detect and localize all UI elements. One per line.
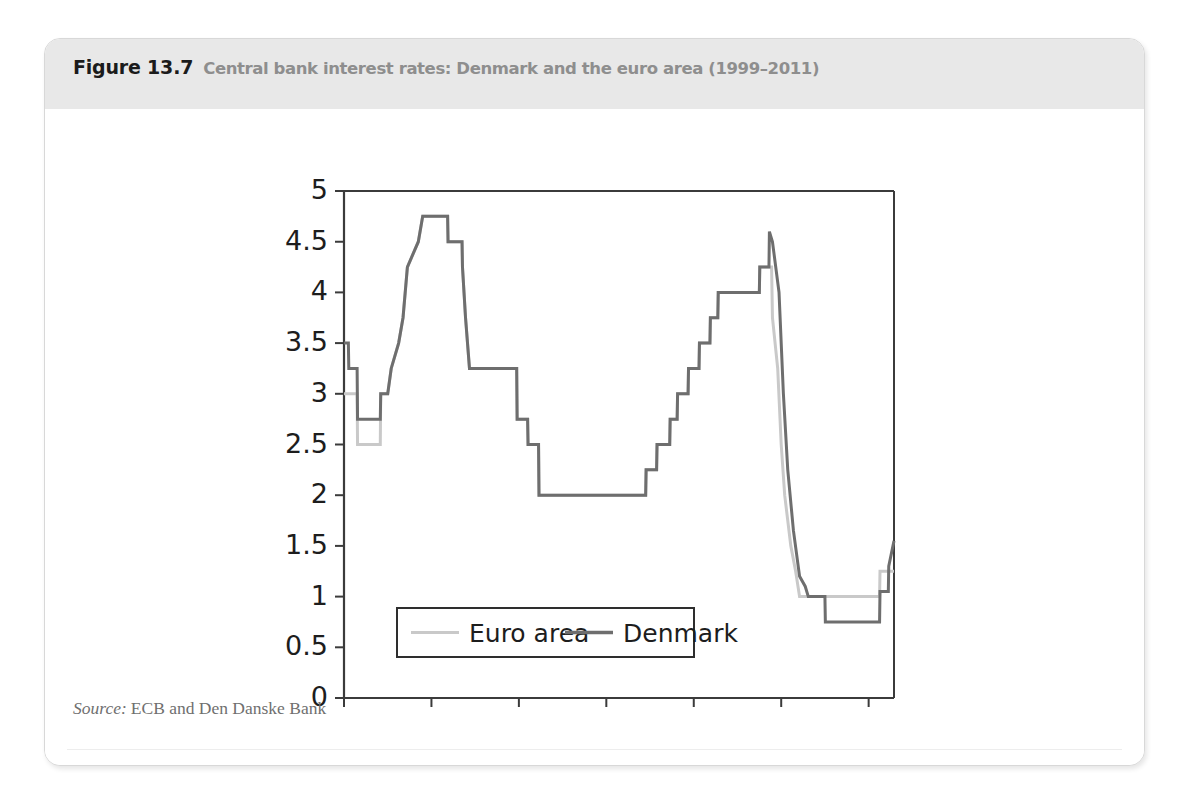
series-line-denmark <box>344 216 894 622</box>
figure-body: 00.511.522.533.544.55Jan-99Jan-01Jan-03J… <box>45 109 1144 765</box>
source-line: Source:ECB and Den Danske Bank <box>73 698 326 719</box>
source-text: ECB and Den Danske Bank <box>131 698 326 718</box>
y-axis-tick-label: 1 <box>311 580 328 611</box>
figure-number: Figure 13.7 <box>73 56 193 78</box>
page-root: Figure 13.7Central bank interest rates: … <box>0 0 1196 809</box>
y-axis-tick-label: 5 <box>311 174 328 205</box>
y-axis-tick-label: 4.5 <box>285 225 328 256</box>
y-axis-tick-label: 0.5 <box>285 630 328 661</box>
figure-title: Figure 13.7Central bank interest rates: … <box>73 56 819 78</box>
chart-plot-area: 00.511.522.533.544.55Jan-99Jan-01Jan-03J… <box>285 174 917 709</box>
legend-label-denmark: Denmark <box>623 619 738 648</box>
interest-rate-line-chart: 00.511.522.533.544.55Jan-99Jan-01Jan-03J… <box>45 109 1144 709</box>
y-axis-tick-label: 2.5 <box>285 428 328 459</box>
y-axis-tick-label: 2 <box>311 478 328 509</box>
y-axis-tick-label: 3.5 <box>285 326 328 357</box>
y-axis-tick-label: 1.5 <box>285 529 328 560</box>
y-axis-tick-label: 3 <box>311 377 328 408</box>
y-axis-tick-label: 4 <box>311 275 328 306</box>
source-label: Source: <box>73 698 127 718</box>
chart-container: 00.511.522.533.544.55Jan-99Jan-01Jan-03J… <box>45 109 1144 709</box>
figure-card: Figure 13.7Central bank interest rates: … <box>44 38 1145 766</box>
figure-caption: Central bank interest rates: Denmark and… <box>203 59 819 78</box>
figure-header-band: Figure 13.7Central bank interest rates: … <box>45 39 1144 109</box>
card-divider <box>67 749 1122 750</box>
series-line-euro-area <box>344 216 894 596</box>
